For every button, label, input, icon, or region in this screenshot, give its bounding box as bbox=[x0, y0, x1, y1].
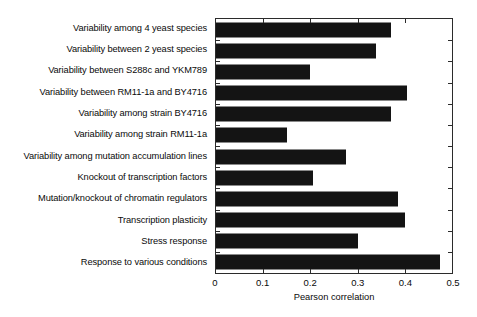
bar-row bbox=[216, 19, 452, 40]
x-tick-label: 0.5 bbox=[446, 277, 459, 288]
x-tick-label: 0.2 bbox=[304, 277, 317, 288]
bar-row bbox=[216, 231, 452, 252]
y-tick-mark bbox=[216, 188, 220, 189]
category-label: Stress response bbox=[0, 231, 212, 252]
x-tick-label: 0.1 bbox=[256, 277, 269, 288]
plot-area bbox=[215, 18, 453, 274]
bar bbox=[216, 191, 398, 206]
category-label: Knockout of transcription factors bbox=[0, 167, 212, 188]
category-axis-labels: Variability among 4 yeast species Variab… bbox=[0, 18, 212, 274]
bar-row bbox=[216, 252, 452, 273]
y-tick-mark bbox=[448, 167, 452, 168]
bar-row bbox=[216, 167, 452, 188]
bar-row bbox=[216, 125, 452, 146]
y-tick-mark bbox=[216, 40, 220, 41]
y-tick-mark bbox=[216, 61, 220, 62]
y-tick-mark bbox=[448, 252, 452, 253]
y-tick-mark bbox=[216, 146, 220, 147]
x-tick-label: 0.4 bbox=[399, 277, 412, 288]
bar-row bbox=[216, 188, 452, 209]
category-label: Variability between S288c and YKM789 bbox=[0, 61, 212, 82]
y-tick-mark bbox=[216, 125, 220, 126]
x-tick-mark-top bbox=[405, 19, 406, 23]
bar bbox=[216, 234, 358, 249]
y-tick-mark bbox=[216, 231, 220, 232]
category-label: Variability among strain RM11-1a bbox=[0, 125, 212, 146]
category-label: Variability among strain BY4716 bbox=[0, 103, 212, 124]
y-tick-mark bbox=[448, 210, 452, 211]
x-tick-mark-top bbox=[358, 19, 359, 23]
y-tick-mark bbox=[216, 210, 220, 211]
bar bbox=[216, 170, 313, 185]
category-label: Variability among 4 yeast species bbox=[0, 18, 212, 39]
x-tick-mark-top bbox=[263, 19, 264, 23]
bar-row bbox=[216, 83, 452, 104]
y-tick-mark bbox=[448, 231, 452, 232]
y-tick-mark bbox=[448, 146, 452, 147]
y-tick-mark bbox=[216, 83, 220, 84]
x-tick-mark bbox=[263, 269, 264, 273]
bar bbox=[216, 255, 440, 270]
y-tick-mark bbox=[448, 188, 452, 189]
bar-row bbox=[216, 104, 452, 125]
x-axis-title: Pearson correlation bbox=[215, 292, 453, 302]
bar-row bbox=[216, 61, 452, 82]
bar-row bbox=[216, 146, 452, 167]
category-label: Variability between RM11-1a and BY4716 bbox=[0, 82, 212, 103]
y-tick-mark bbox=[448, 61, 452, 62]
bar bbox=[216, 22, 391, 37]
y-tick-mark bbox=[216, 167, 220, 168]
x-axis-tick-labels: 00.10.20.30.40.5 bbox=[215, 277, 453, 290]
x-tick-mark bbox=[405, 269, 406, 273]
bar bbox=[216, 43, 376, 58]
x-tick-mark bbox=[310, 269, 311, 273]
y-tick-mark bbox=[216, 252, 220, 253]
bar-row bbox=[216, 210, 452, 231]
bar bbox=[216, 128, 287, 143]
y-tick-mark bbox=[448, 40, 452, 41]
bar-chart-figure: Variability among 4 yeast species Variab… bbox=[0, 0, 477, 317]
x-tick-label: 0.3 bbox=[351, 277, 364, 288]
bar-series bbox=[216, 19, 452, 273]
bar bbox=[216, 213, 405, 228]
y-tick-mark bbox=[448, 83, 452, 84]
y-tick-mark bbox=[448, 125, 452, 126]
x-tick-mark-top bbox=[310, 19, 311, 23]
bar bbox=[216, 64, 310, 79]
y-tick-mark bbox=[216, 104, 220, 105]
category-label: Variability among mutation accumulation … bbox=[0, 146, 212, 167]
y-tick-mark bbox=[448, 104, 452, 105]
category-label: Transcription plasticity bbox=[0, 210, 212, 231]
category-label: Mutation/knockout of chromatin regulator… bbox=[0, 189, 212, 210]
category-label: Response to various conditions bbox=[0, 253, 212, 274]
bar-row bbox=[216, 40, 452, 61]
category-label: Variability between 2 yeast species bbox=[0, 39, 212, 60]
bar bbox=[216, 86, 407, 101]
x-tick-mark bbox=[358, 269, 359, 273]
x-tick-label: 0 bbox=[212, 277, 217, 288]
bar bbox=[216, 149, 346, 164]
bar bbox=[216, 107, 391, 122]
